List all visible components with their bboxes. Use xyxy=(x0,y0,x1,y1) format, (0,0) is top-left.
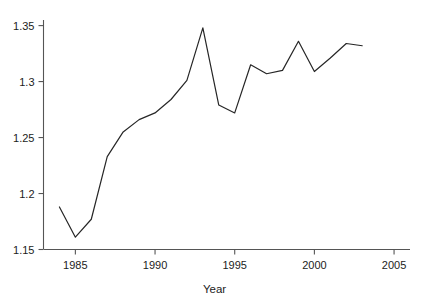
x-tick-label: 1985 xyxy=(45,259,105,271)
y-tick-marks xyxy=(39,26,44,250)
x-tick-label: 1995 xyxy=(205,259,265,271)
y-tick-label: 1.35 xyxy=(0,20,35,32)
x-tick-marks xyxy=(75,250,394,255)
y-tick-label: 1.15 xyxy=(0,244,35,256)
y-tick-label: 1.3 xyxy=(0,76,35,88)
y-tick-label: 1.25 xyxy=(0,132,35,144)
x-tick-label: 1990 xyxy=(125,259,185,271)
y-tick-label: 1.2 xyxy=(0,188,35,200)
data-series-line xyxy=(59,28,362,237)
x-axis-title: Year xyxy=(0,283,429,295)
x-tick-label: 2000 xyxy=(284,259,344,271)
line-chart: 1.151.21.251.31.35 19851990199520002005 … xyxy=(0,0,429,307)
x-tick-label: 2005 xyxy=(364,259,424,271)
